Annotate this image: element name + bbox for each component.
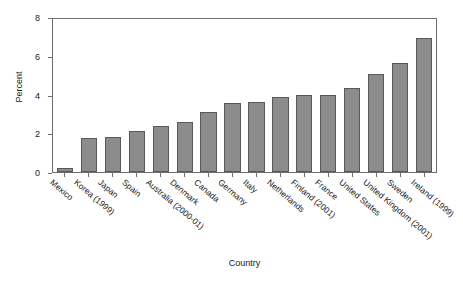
x-tick-mark [88, 173, 89, 177]
bar-slot [412, 19, 436, 172]
bar-slot [149, 19, 173, 172]
y-tick-label: 4 [35, 91, 40, 101]
x-tick-mark [232, 173, 233, 177]
bar[interactable] [105, 137, 121, 172]
y-tick-4: 4 [0, 96, 52, 97]
bar-slot [197, 19, 221, 172]
y-tick-label: 6 [35, 52, 40, 62]
bar[interactable] [272, 97, 288, 172]
bar[interactable] [81, 138, 97, 172]
y-tick-label: 0 [35, 168, 40, 178]
bar-slot [221, 19, 245, 172]
x-tick-label: Ireland (1999) [410, 178, 456, 219]
bar-slot [268, 19, 292, 172]
x-tick-label: Mexico [49, 178, 75, 202]
y-tick-0: 0 [0, 173, 52, 174]
bar-slot [125, 19, 149, 172]
bar-slot [292, 19, 316, 172]
x-tick-mark [112, 173, 113, 177]
x-tick-mark [208, 173, 209, 177]
x-tick-mark [424, 173, 425, 177]
x-tick-mark [184, 173, 185, 177]
bar-slot [388, 19, 412, 172]
bar[interactable] [224, 103, 240, 172]
x-tick-mark [352, 173, 353, 177]
x-tick-mark [376, 173, 377, 177]
y-axis-ticks: 02468 [0, 0, 52, 288]
bar[interactable] [129, 131, 145, 172]
bar-slot [173, 19, 197, 172]
bar-slot [53, 19, 77, 172]
bar[interactable] [416, 38, 432, 172]
chart-page: Percent 02468 MexicoKorea (1999)JapanSpa… [0, 0, 463, 288]
x-tick-mark [400, 173, 401, 177]
bar-slot [245, 19, 269, 172]
x-tick-mark [280, 173, 281, 177]
bar-series [53, 19, 436, 172]
bar[interactable] [320, 95, 336, 173]
bar[interactable] [153, 126, 169, 172]
bar-slot [77, 19, 101, 172]
bar[interactable] [296, 95, 312, 173]
bar-slot [101, 19, 125, 172]
y-tick-6: 6 [0, 57, 52, 58]
bar[interactable] [368, 74, 384, 172]
bar[interactable] [248, 102, 264, 172]
plot-area [52, 18, 437, 173]
bar[interactable] [344, 88, 360, 172]
bar-slot [316, 19, 340, 172]
y-tick-8: 8 [0, 18, 52, 19]
x-tick-mark [304, 173, 305, 177]
x-tick-mark [64, 173, 65, 177]
y-tick-label: 8 [35, 13, 40, 23]
bar[interactable] [57, 168, 73, 172]
x-tick-label: Italy [241, 178, 258, 195]
bar[interactable] [200, 112, 216, 172]
y-tick-label: 2 [35, 129, 40, 139]
x-tick-mark [328, 173, 329, 177]
x-axis-tick-labels: MexicoKorea (1999)JapanSpainAustralia (2… [52, 178, 437, 258]
x-tick-mark [136, 173, 137, 177]
x-axis-title: Country [52, 258, 437, 268]
bar[interactable] [177, 122, 193, 172]
bar[interactable] [392, 63, 408, 172]
y-tick-2: 2 [0, 134, 52, 135]
x-tick-mark [256, 173, 257, 177]
x-tick-label: Spain [121, 178, 143, 198]
x-tick-mark [160, 173, 161, 177]
bar-slot [364, 19, 388, 172]
bar-slot [340, 19, 364, 172]
